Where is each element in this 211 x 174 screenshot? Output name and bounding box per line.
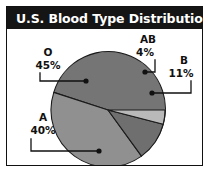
pie-chart-svg: O 45% A 40% AB 4% B 11% bbox=[7, 29, 201, 165]
slice-value-a: 40% bbox=[30, 124, 56, 136]
slice-label-b: B bbox=[180, 54, 188, 66]
slice-label-ab: AB bbox=[140, 33, 156, 45]
page-title: U.S. Blood Type Distribution bbox=[7, 11, 211, 26]
chart-screenshot: U.S. Blood Type Distribution O 45% bbox=[0, 0, 211, 174]
slice-value-ab: 4% bbox=[136, 46, 154, 58]
leader-dot-o bbox=[83, 78, 88, 83]
slice-label-o: O bbox=[44, 46, 53, 58]
slice-value-b: 11% bbox=[168, 67, 194, 79]
slice-label-a: A bbox=[39, 111, 48, 123]
leader-dot-ab bbox=[142, 69, 147, 74]
chart-frame: U.S. Blood Type Distribution O 45% bbox=[6, 6, 203, 166]
pie-chart-plot-area: O 45% A 40% AB 4% B 11% bbox=[7, 29, 202, 165]
chart-title-bar: U.S. Blood Type Distribution bbox=[7, 7, 202, 29]
leader-dot-b bbox=[149, 90, 154, 95]
slice-value-o: 45% bbox=[35, 59, 61, 71]
leader-dot-a bbox=[96, 148, 101, 153]
